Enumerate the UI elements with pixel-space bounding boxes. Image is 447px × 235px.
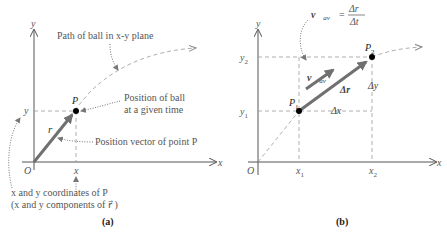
path-annotation: Path of ball in x-y plane	[57, 30, 154, 41]
point-p	[73, 108, 79, 114]
position-pointer	[81, 101, 120, 111]
origin-label: O	[24, 165, 31, 176]
point-p-label: P	[71, 95, 78, 106]
origin-to-p1-line	[258, 111, 299, 162]
y-axis-label: y	[30, 18, 36, 29]
position-vector-pointer	[58, 138, 93, 142]
delta-y-label: Δy	[367, 80, 379, 91]
y-axis-label: y	[255, 18, 261, 29]
point-p1-label: P1	[288, 97, 299, 111]
formula-lhs: v⃗av	[311, 9, 331, 22]
formula-numerator: Δr⃗	[348, 3, 367, 14]
path-pointer	[110, 44, 118, 70]
point-p2-label: P2	[364, 42, 375, 56]
ball-path	[372, 47, 422, 57]
panel-b: y x O y2 y1 x1 x2 v⃗av P1 P2 Δr⃗ Δy Δx	[239, 3, 442, 228]
coords-annotation-line1: x and y coordinates of P	[11, 187, 108, 198]
origin-label: O	[247, 165, 254, 176]
x2-label: x2	[368, 165, 377, 179]
x1-label: x1	[295, 165, 304, 179]
position-vector-label: r⃗	[48, 123, 61, 135]
delta-r-label: Δr⃗	[339, 84, 358, 95]
position-annotation-line1: Position of ball	[124, 92, 185, 103]
x-axis-label: x	[436, 157, 442, 168]
kinematics-figure: y x O y x r⃗ P Path of ball in x-y plane…	[0, 0, 447, 235]
x-coordinate-label: x	[73, 165, 79, 176]
formula-pointer	[300, 20, 308, 60]
y2-label: y2	[239, 52, 248, 66]
panel-a-caption: (a)	[102, 216, 114, 228]
x-axis-label: x	[217, 157, 223, 168]
y1-label: y1	[239, 106, 248, 120]
delta-x-label: Δx	[330, 105, 342, 116]
formula-equals: =	[339, 9, 345, 20]
position-annotation-line2: at a given time	[124, 104, 184, 115]
panel-a: y x O y x r⃗ P Path of ball in x-y plane…	[9, 18, 223, 228]
formula-denominator: Δt	[349, 16, 359, 27]
panel-b-caption: (b)	[336, 216, 348, 228]
coords-pointer-y	[9, 118, 20, 188]
average-velocity-formula: v⃗av = Δr⃗ Δt	[311, 3, 367, 27]
position-vector-annotation: Position vector of point P	[95, 136, 198, 147]
y-coordinate-label: y	[23, 105, 29, 116]
coords-annotation-line2: (x and y components of r⃗ )	[11, 199, 118, 211]
